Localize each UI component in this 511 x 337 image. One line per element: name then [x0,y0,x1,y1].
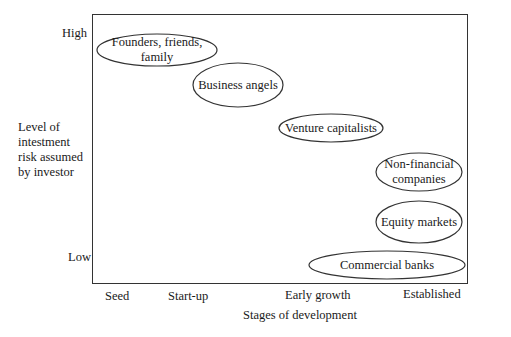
source-label: Commercial banks [340,258,434,273]
source-label-line: companies [384,172,453,187]
source-label-line: Non-financial [384,157,453,172]
source-label-line: Founders, friends, [112,35,203,50]
source-label: Business angels [198,78,278,93]
source-label: Equity markets [381,215,457,230]
source-label-line: Equity markets [381,215,457,230]
source-label: Founders, friends,family [112,35,203,65]
source-label: Venture capitalists [285,121,377,136]
source-label-line: Commercial banks [340,258,434,273]
source-label-line: family [112,50,203,65]
source-label-line: Venture capitalists [285,121,377,136]
source-label: Non-financialcompanies [384,157,453,187]
source-label-line: Business angels [198,78,278,93]
